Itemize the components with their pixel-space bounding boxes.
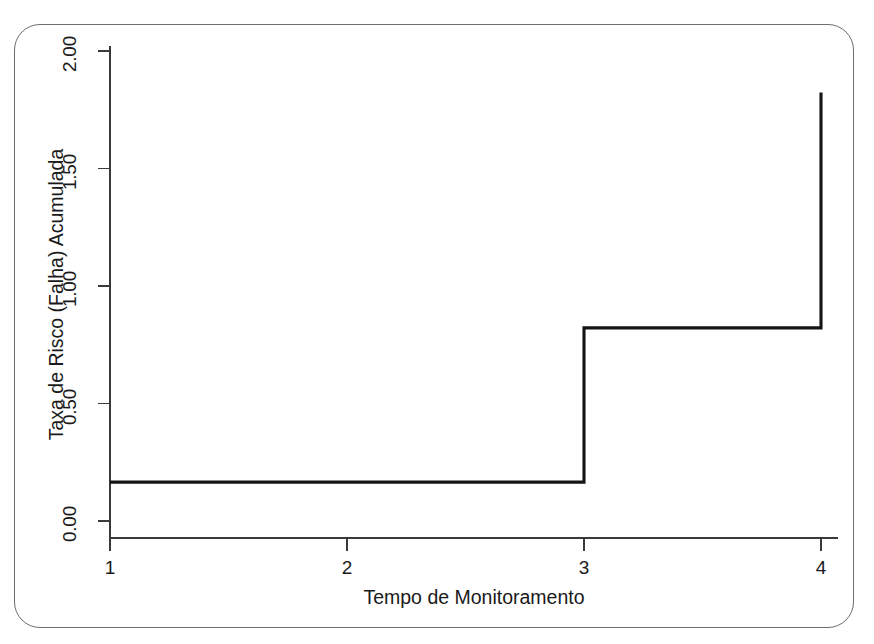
plot-canvas — [0, 0, 874, 644]
x-axis-title: Tempo de Monitoramento — [224, 586, 724, 609]
x-tick-label-0: 1 — [90, 557, 130, 579]
x-tick-label-2: 3 — [564, 557, 604, 579]
y-tick-label-0: 0.00 — [59, 498, 81, 550]
y-axis-title: Taxa de Risco (Falha) Acumulada — [45, 125, 68, 465]
y-tick-label-4: 2.00 — [59, 28, 81, 80]
chart-figure: 0.00 0.50 1.00 1.50 2.00 1 2 3 4 Taxa de… — [0, 0, 874, 644]
x-tick-label-3: 4 — [801, 557, 841, 579]
x-tick-label-1: 2 — [327, 557, 367, 579]
cumulative-hazard-step-line — [110, 92, 821, 482]
